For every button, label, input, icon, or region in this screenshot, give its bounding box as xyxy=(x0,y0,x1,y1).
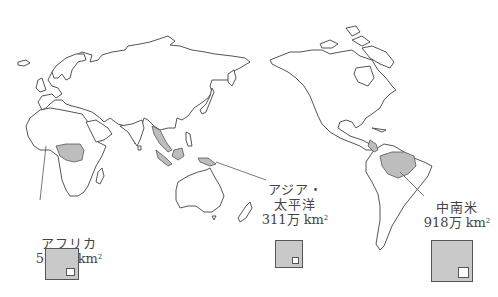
australia xyxy=(176,168,224,212)
area-square-africa xyxy=(45,248,79,280)
leader-line-africa xyxy=(40,146,46,200)
region-name-latin-america: 中南米 xyxy=(416,200,498,215)
arctic-archipelago-3 xyxy=(352,36,370,46)
rainforest-new-guinea xyxy=(198,158,216,166)
cuba xyxy=(372,128,386,132)
iceland xyxy=(18,60,30,66)
tasmania xyxy=(212,216,216,220)
region-area-latin-america: 918万 km2 xyxy=(416,215,498,230)
madagascar xyxy=(96,168,104,184)
region-name-asia-pacific-line1: アジア・ xyxy=(250,182,340,197)
area-square-latin-america-inner xyxy=(458,267,469,278)
sri-lanka xyxy=(138,146,141,150)
leader-line-asia-pacific xyxy=(216,162,266,180)
area-square-asia-pacific xyxy=(275,240,303,268)
region-name-asia-pacific-line2: 太平洋 xyxy=(250,197,340,212)
rainforest-sumatra xyxy=(156,150,172,166)
area-square-latin-america xyxy=(431,240,473,282)
arctic-archipelago-2 xyxy=(346,26,360,36)
region-area-asia-pacific: 311万 km2 xyxy=(250,212,340,227)
label-asia-pacific: アジア・ 太平洋 311万 km2 xyxy=(250,182,340,227)
north-america xyxy=(270,50,396,150)
area-square-asia-pacific-inner xyxy=(292,257,299,264)
area-square-africa-inner xyxy=(66,268,75,276)
arctic-archipelago-1 xyxy=(320,40,338,48)
philippines xyxy=(186,132,192,146)
label-latin-america: 中南米 918万 km2 xyxy=(416,200,498,230)
great-britain xyxy=(36,78,46,92)
rainforest-borneo xyxy=(172,148,184,160)
